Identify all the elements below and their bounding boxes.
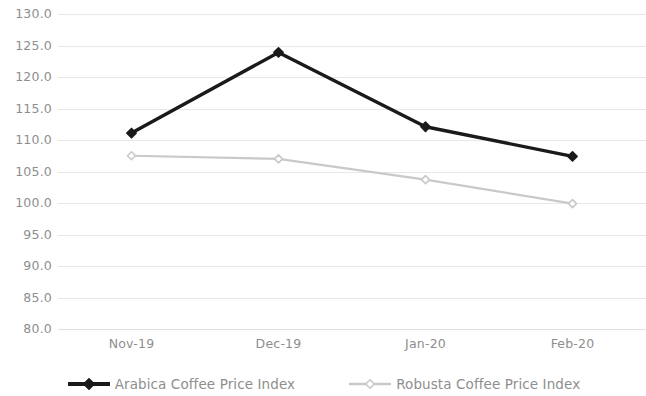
y-tick-label: 115.0 — [0, 103, 52, 116]
y-tick-label: 80.0 — [0, 323, 52, 336]
legend-entry-arabica[interactable]: Arabica Coffee Price Index — [66, 376, 295, 392]
x-tick-label: Feb-20 — [551, 337, 595, 350]
line-chart: 130.0125.0120.0115.0110.0105.0100.095.09… — [0, 0, 646, 396]
y-tick-label: 100.0 — [0, 197, 52, 210]
data-point-marker — [128, 152, 136, 160]
series-arabica — [127, 48, 577, 161]
legend-line-marker-icon — [66, 376, 112, 392]
series-layer — [58, 14, 646, 329]
plot-area — [58, 14, 646, 329]
legend-entry-robusta[interactable]: Robusta Coffee Price Index — [347, 376, 580, 392]
x-tick-label: Nov-19 — [109, 337, 155, 350]
y-tick-label: 125.0 — [0, 40, 52, 53]
data-point-marker — [422, 176, 430, 184]
gridline — [58, 329, 646, 330]
y-tick-label: 130.0 — [0, 8, 52, 21]
y-tick-label: 120.0 — [0, 71, 52, 84]
y-tick-label: 110.0 — [0, 134, 52, 147]
y-tick-label: 85.0 — [0, 292, 52, 305]
y-axis: 130.0125.0120.0115.0110.0105.0100.095.09… — [0, 0, 52, 396]
x-axis: Nov-19Dec-19Jan-20Feb-20 — [58, 337, 646, 357]
data-point-marker — [275, 155, 283, 163]
y-tick-label: 105.0 — [0, 166, 52, 179]
series-line — [132, 52, 573, 156]
y-tick-label: 95.0 — [0, 229, 52, 242]
y-tick-label: 90.0 — [0, 260, 52, 273]
series-robusta — [128, 152, 577, 208]
legend-line-marker-icon — [347, 376, 393, 392]
series-line — [132, 156, 573, 204]
data-point-marker — [569, 200, 577, 208]
legend-label: Robusta Coffee Price Index — [396, 376, 580, 392]
legend-label: Arabica Coffee Price Index — [115, 376, 295, 392]
x-tick-label: Jan-20 — [405, 337, 446, 350]
chart-legend: Arabica Coffee Price IndexRobusta Coffee… — [0, 372, 646, 396]
x-tick-label: Dec-19 — [256, 337, 302, 350]
data-point-marker — [568, 152, 577, 161]
